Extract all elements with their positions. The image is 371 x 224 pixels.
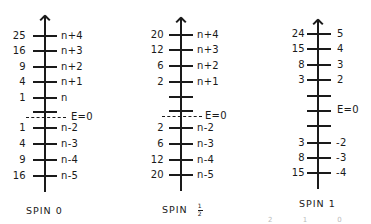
level-tick <box>33 81 57 83</box>
level-label: -3 <box>336 153 347 163</box>
level-tick <box>33 66 57 68</box>
level-value: 1 <box>4 123 26 133</box>
level-label: n <box>61 93 68 103</box>
level-value: 12 <box>142 155 164 165</box>
level-label: n-5 <box>197 170 214 180</box>
level-tick <box>33 50 57 52</box>
level-tick <box>33 35 57 37</box>
zero-tick <box>169 110 193 112</box>
level-value: 20 <box>142 170 164 180</box>
level-label: 5 <box>337 29 344 39</box>
level-value: 16 <box>4 171 26 181</box>
level-value: 16 <box>4 46 26 56</box>
zero-label: E=0 <box>337 105 359 115</box>
level-tick <box>169 81 193 83</box>
blank-tick <box>307 95 331 97</box>
panel-spin-half: E=0 20 12 6 2 n+4 n+3 n+2 n+1 2 6 12 20 … <box>124 0 248 224</box>
level-label: n+3 <box>197 45 219 55</box>
level-tick <box>169 49 193 51</box>
level-label: n-3 <box>61 139 78 149</box>
level-label: n+2 <box>61 62 83 72</box>
zero-energy-line <box>26 117 66 118</box>
level-tick <box>169 159 193 161</box>
level-label: n+4 <box>61 31 83 41</box>
level-tick <box>307 172 331 174</box>
level-value: 25 <box>4 31 26 41</box>
level-tick <box>33 97 57 99</box>
level-tick <box>169 143 193 145</box>
panel-title: SPIN 0 <box>26 205 63 216</box>
level-value: 4 <box>4 139 26 149</box>
panel-spin-1: E=0 24 15 8 3 5 4 3 2 3 8 15 -2 -3 -4 SP… <box>247 0 371 224</box>
level-tick <box>33 127 57 129</box>
level-label: n-3 <box>197 139 214 149</box>
level-tick <box>307 64 331 66</box>
level-tick <box>33 175 57 177</box>
level-tick <box>307 79 331 81</box>
level-value: 24 <box>283 29 305 39</box>
level-tick <box>169 34 193 36</box>
zero-tick <box>307 110 331 112</box>
level-value: 1 <box>4 93 26 103</box>
level-value: 6 <box>142 139 164 149</box>
level-tick <box>307 33 331 35</box>
level-value: 9 <box>4 62 26 72</box>
level-label: -4 <box>336 168 347 178</box>
zero-tick <box>33 111 57 113</box>
level-value: 4 <box>4 77 26 87</box>
level-label: n+4 <box>197 30 219 40</box>
level-label: n-2 <box>61 123 78 133</box>
level-value: 20 <box>142 30 164 40</box>
zero-label: E=0 <box>205 111 227 121</box>
level-value: 2 <box>142 123 164 133</box>
fraction-numerator: 1 <box>198 203 203 209</box>
level-value: 9 <box>4 155 26 165</box>
level-value: 15 <box>283 168 305 178</box>
zero-energy-line <box>162 116 202 117</box>
level-tick <box>169 174 193 176</box>
level-label: n+2 <box>197 61 219 71</box>
panel-title: SPIN 1 <box>299 198 336 209</box>
level-label: n+1 <box>197 77 219 87</box>
level-tick <box>307 142 331 144</box>
level-label: n-4 <box>197 155 214 165</box>
level-tick <box>169 127 193 129</box>
level-label: 4 <box>337 44 344 54</box>
fraction-denominator: 2 <box>198 211 203 217</box>
panel-title: SPIN 1 2 <box>162 203 203 217</box>
level-value: 12 <box>142 45 164 55</box>
energy-axis <box>44 16 46 192</box>
blank-tick <box>169 96 193 98</box>
level-label: 2 <box>337 75 344 85</box>
level-label: n-2 <box>197 123 214 133</box>
level-label: n+3 <box>61 46 83 56</box>
blank-tick <box>307 125 331 127</box>
level-tick <box>33 143 57 145</box>
level-tick <box>33 159 57 161</box>
level-label: n-5 <box>61 171 78 181</box>
level-value: 3 <box>283 75 305 85</box>
level-value: 2 <box>142 77 164 87</box>
level-tick <box>307 157 331 159</box>
panel-title-text: SPIN <box>162 204 188 215</box>
level-label: n+1 <box>61 77 83 87</box>
level-tick <box>307 48 331 50</box>
level-value: 8 <box>283 60 305 70</box>
level-tick <box>169 65 193 67</box>
fraction-one-half: 1 2 <box>198 203 203 217</box>
level-value: 8 <box>283 153 305 163</box>
zero-label: E=0 <box>71 112 93 122</box>
level-value: 6 <box>142 61 164 71</box>
level-label: n-4 <box>61 155 78 165</box>
level-label: 3 <box>337 60 344 70</box>
energy-axis <box>180 18 182 191</box>
panel-spin-0: E=0 25 16 9 4 1 n+4 n+3 n+2 n+1 n 1 4 9 … <box>0 0 124 224</box>
level-value: 15 <box>283 44 305 54</box>
energy-axis <box>317 20 319 189</box>
faint-cutoff-text: 2 1 0 <box>268 216 356 224</box>
level-value: 3 <box>283 138 305 148</box>
level-label: -2 <box>336 138 347 148</box>
